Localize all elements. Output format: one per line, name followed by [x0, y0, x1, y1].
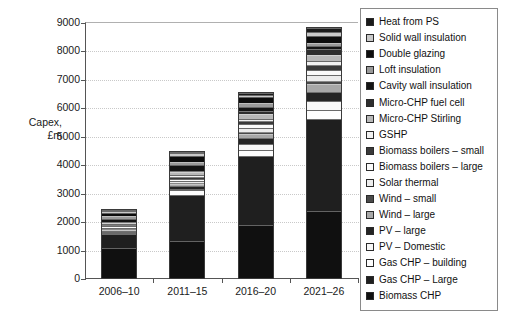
legend-swatch-icon: [366, 276, 374, 284]
bar-segment: [307, 84, 341, 92]
y-axis-tick: [81, 279, 86, 280]
legend-label: Micro-CHP Stirling: [379, 114, 461, 124]
bar-2006–10[interactable]: [102, 210, 136, 278]
bar-2011–15[interactable]: [170, 152, 204, 278]
x-axis-tick: [153, 278, 154, 283]
legend-label: Gas CHP – building: [379, 258, 467, 268]
legend-swatch-icon: [366, 115, 374, 123]
bar-segment: [239, 225, 273, 278]
legend-label: Heat from PS: [379, 17, 439, 27]
legend-item[interactable]: Wind – large: [366, 207, 493, 223]
legend-swatch-icon: [366, 195, 374, 203]
legend-swatch-icon: [366, 211, 374, 219]
legend-item[interactable]: PV – large: [366, 223, 493, 239]
bar-segment: [307, 211, 341, 278]
legend-label: Gas CHP – Large: [379, 275, 458, 285]
y-tick-label: 3000: [36, 188, 80, 198]
bar-segment: [102, 234, 136, 248]
legend-item[interactable]: Wind – small: [366, 191, 493, 207]
bar-segment: [170, 195, 204, 241]
legend-item[interactable]: Gas CHP – building: [366, 255, 493, 271]
bar-2021–26[interactable]: [307, 28, 341, 278]
legend-swatch-icon: [366, 179, 374, 187]
legend-swatch-icon: [366, 227, 374, 235]
y-tick-label: 4000: [36, 159, 80, 169]
bar-segment: [307, 119, 341, 211]
legend-item[interactable]: Biomass boilers – small: [366, 143, 493, 159]
bar-segment: [307, 110, 341, 119]
legend-item[interactable]: Solid wall insulation: [366, 30, 493, 46]
legend-label: Solar thermal: [379, 178, 438, 188]
legend-label: PV – Domestic: [379, 242, 445, 252]
legend-swatch-icon: [366, 99, 374, 107]
legend-item[interactable]: Cavity wall insulation: [366, 78, 493, 94]
legend-item[interactable]: Micro-CHP fuel cell: [366, 94, 493, 110]
legend-item[interactable]: Double glazing: [366, 46, 493, 62]
legend-label: Wind – large: [379, 210, 435, 220]
bars-container: [85, 22, 358, 278]
legend-label: Solid wall insulation: [379, 33, 466, 43]
legend-item[interactable]: Biomass CHP: [366, 288, 493, 304]
legend-item[interactable]: PV – Domestic: [366, 239, 493, 255]
legend-label: Micro-CHP fuel cell: [379, 98, 464, 108]
legend-item[interactable]: GSHP: [366, 127, 493, 143]
bar-segment: [239, 156, 273, 225]
legend-label: Biomass CHP: [379, 291, 441, 301]
y-tick-label: 8000: [36, 45, 80, 55]
y-tick-label: 9000: [36, 17, 80, 27]
y-tick-label: 5000: [36, 131, 80, 141]
x-axis-tick: [290, 278, 291, 283]
legend-label: Loft insulation: [379, 65, 441, 75]
x-tick-label: 2021–26: [284, 285, 364, 297]
legend-swatch-icon: [366, 243, 374, 251]
legend-swatch-icon: [366, 50, 374, 58]
legend-swatch-icon: [366, 82, 374, 90]
y-tick-label: 0: [36, 273, 80, 283]
bar-2016–20[interactable]: [239, 93, 273, 278]
legend-item[interactable]: Micro-CHP Stirling: [366, 111, 493, 127]
legend-swatch-icon: [366, 66, 374, 74]
legend-swatch-icon: [366, 34, 374, 42]
legend-swatch-icon: [366, 259, 374, 267]
y-tick-label: 6000: [36, 102, 80, 112]
chart-root: Capex, £m 900080007000600050004000300020…: [0, 0, 505, 320]
bar-segment: [307, 36, 341, 43]
legend-label: Biomass boilers – small: [379, 146, 484, 156]
legend-swatch-icon: [366, 147, 374, 155]
bar-segment: [307, 101, 341, 110]
legend-swatch-icon: [366, 163, 374, 171]
legend-item[interactable]: Gas CHP – Large: [366, 272, 493, 288]
legend-item[interactable]: Loft insulation: [366, 62, 493, 78]
y-axis-tick-labels: 9000800070006000500040003000200010000: [33, 22, 80, 278]
legend-label: Cavity wall insulation: [379, 81, 472, 91]
legend-label: Wind – small: [379, 194, 436, 204]
chart-legend: Heat from PSSolid wall insulationDouble …: [360, 8, 498, 311]
legend-item[interactable]: Biomass boilers – large: [366, 159, 493, 175]
legend-swatch-icon: [366, 18, 374, 26]
bar-segment: [307, 92, 341, 101]
bar-segment: [170, 241, 204, 278]
bar-segment: [102, 248, 136, 278]
legend-item[interactable]: Heat from PS: [366, 14, 493, 30]
legend-swatch-icon: [366, 131, 374, 139]
y-tick-label: 2000: [36, 216, 80, 226]
legend-label: Biomass boilers – large: [379, 162, 483, 172]
y-tick-label: 7000: [36, 74, 80, 84]
legend-label: GSHP: [379, 130, 407, 140]
legend-label: PV – large: [379, 226, 426, 236]
legend-label: Double glazing: [379, 49, 445, 59]
x-axis-tick: [358, 278, 359, 283]
legend-swatch-icon: [366, 292, 374, 300]
legend-item[interactable]: Solar thermal: [366, 175, 493, 191]
y-tick-label: 1000: [36, 245, 80, 255]
x-axis-tick: [222, 278, 223, 283]
